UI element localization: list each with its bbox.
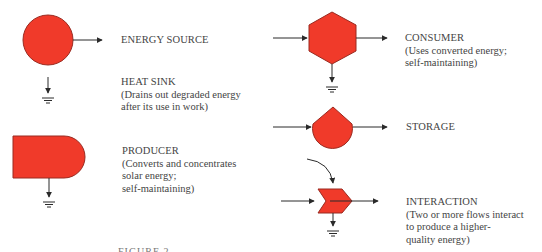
consumer-label: CONSUMER (Uses converted energy; self-ma…: [405, 32, 507, 70]
consumer-symbol: [273, 12, 387, 92]
interaction-desc-line-2: to produce a higher-: [406, 221, 524, 234]
storage-title: STORAGE: [406, 121, 455, 134]
producer-desc-line-1: (Converts and concentrates: [122, 158, 236, 171]
ground-icon: [327, 231, 339, 236]
energy-source-title: ENERGY SOURCE: [121, 34, 209, 47]
storage-tank-icon: [313, 107, 353, 148]
interaction-desc-line-3: quality energy): [406, 234, 524, 247]
consumer-desc-line-1: (Uses converted energy;: [405, 45, 507, 58]
storage-label: STORAGE: [406, 121, 455, 134]
ground-icon: [43, 202, 55, 207]
producer-desc-line-3: self-maintaining): [122, 183, 236, 196]
energy-source-circle-icon: [23, 15, 73, 65]
interaction-curved-input-arrow-icon: [307, 159, 333, 183]
storage-symbol: [273, 107, 387, 148]
producer-symbol: [13, 136, 85, 207]
energy-source-symbol: [23, 15, 102, 65]
interaction-symbol: [281, 159, 378, 236]
interaction-title: INTERACTION: [406, 196, 524, 209]
producer-bullet-icon: [13, 136, 85, 178]
consumer-title: CONSUMER: [405, 32, 507, 45]
energy-source-label: ENERGY SOURCE: [121, 34, 209, 47]
figure-caption: FIGURE 2: [118, 246, 170, 252]
producer-desc-line-2: solar energy;: [122, 170, 236, 183]
heat-sink-label: HEAT SINK (Drains out degraded energy af…: [121, 76, 241, 114]
producer-label: PRODUCER (Converts and concentrates sola…: [122, 145, 236, 195]
interaction-label: INTERACTION (Two or more flows interact …: [406, 196, 524, 246]
producer-title: PRODUCER: [122, 145, 236, 158]
ground-icon: [42, 98, 54, 103]
consumer-hexagon-icon: [309, 12, 356, 64]
heat-sink-desc-line-1: (Drains out degraded energy: [121, 89, 241, 102]
interaction-desc-line-1: (Two or more flows interact: [406, 209, 524, 222]
heat-sink-symbol: [42, 77, 54, 103]
consumer-desc-line-2: self-maintaining): [405, 57, 507, 70]
ground-icon: [326, 87, 338, 92]
heat-sink-title: HEAT SINK: [121, 76, 241, 89]
heat-sink-desc-line-2: after its use in work): [121, 101, 241, 114]
